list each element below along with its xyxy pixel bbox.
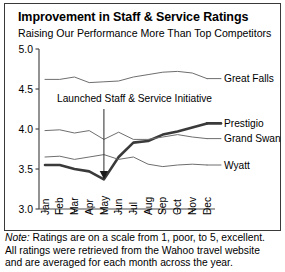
annotation-label: Launched Staff & Service Initiative (57, 93, 212, 104)
y-axis-tick-label: 4.5 (19, 84, 34, 95)
y-axis-tick-label: 5.0 (19, 44, 34, 55)
footnote-line-1: Note: Ratings are on a scale from 1, poo… (5, 232, 283, 245)
series-line-wyatt (45, 155, 207, 167)
x-axis-ticks: JanFebMarAprMayJunJulAugSepOctNovDec (40, 195, 213, 215)
x-axis-tick-label: Nov (187, 196, 198, 215)
x-axis-tick-label: Jul (128, 202, 139, 215)
chart-card: Improvement in Staff & Service Ratings R… (4, 3, 281, 231)
y-axis-tick-label: 4.0 (19, 124, 34, 135)
y-axis-ticks: 3.03.54.04.55.0 (19, 44, 39, 215)
series-label-wyatt: Wyatt (224, 160, 250, 171)
footnote-note-word: Note: (5, 232, 30, 243)
series-line-great-falls (45, 71, 207, 82)
x-axis-tick-label: Dec (202, 197, 213, 215)
x-axis-tick-label: Sep (157, 197, 168, 215)
series-label-grand-swan: Grand Swan (224, 133, 281, 144)
footnote-line-2: All ratings were retrieved from the Waho… (5, 245, 283, 258)
x-axis-tick-label: Mar (69, 197, 80, 215)
chart-series-lines (45, 71, 221, 179)
x-axis-tick-label: Jun (113, 199, 124, 215)
x-axis-tick-label: Feb (54, 197, 65, 215)
series-labels: Great FallsPrestigioGrand SwanWyatt (224, 73, 281, 170)
footnote-line-1-text: Ratings are on a scale from 1, poor, to … (30, 232, 265, 243)
series-label-prestigio: Prestigio (224, 118, 264, 129)
chart-page: Improvement in Staff & Service Ratings R… (0, 0, 285, 272)
x-axis-tick-label: May (99, 195, 110, 215)
chart-annotation: Launched Staff & Service Initiative (57, 93, 212, 179)
x-axis-tick-label: Oct (172, 199, 183, 215)
x-axis-tick-label: Jan (40, 199, 51, 215)
y-axis-tick-label: 3.5 (19, 164, 34, 175)
line-chart-plot: 3.03.54.04.55.0 JanFebMarAprMayJunJulAug… (5, 4, 282, 232)
footnote-line-3: and are averaged for each month across t… (5, 257, 283, 270)
x-axis-tick-label: Aug (143, 197, 154, 215)
x-axis-tick-label: Apr (84, 199, 95, 215)
series-label-great-falls: Great Falls (224, 73, 274, 84)
chart-footnote: Note: Ratings are on a scale from 1, poo… (5, 232, 283, 270)
y-axis-tick-label: 3.0 (19, 204, 34, 215)
